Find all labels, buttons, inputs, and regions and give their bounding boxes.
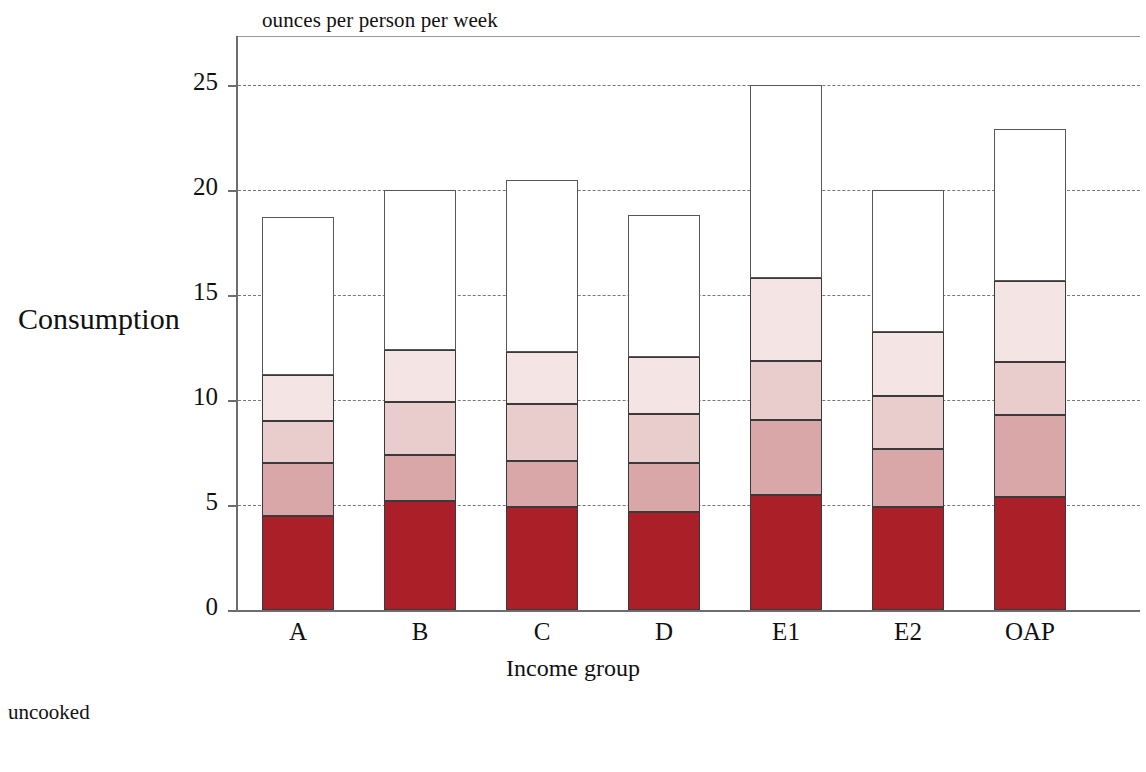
bar-segment-A-segment-5[interactable]	[262, 217, 334, 375]
y-axis-title: Consumption	[18, 302, 180, 336]
y-tick-label-text: 20	[193, 173, 218, 201]
bar-segment-B-segment-4[interactable]	[384, 350, 456, 403]
bar-segment-D-segment-1[interactable]	[628, 512, 700, 610]
y-tick-label-text: 10	[193, 383, 218, 411]
x-axis-line	[236, 610, 1140, 612]
gridline-25	[238, 85, 1140, 86]
x-tick-label-A: A	[238, 618, 358, 646]
bar-segment-C-segment-2[interactable]	[506, 461, 578, 507]
bar-segment-C-segment-1[interactable]	[506, 507, 578, 610]
bar-segment-B-segment-3[interactable]	[384, 402, 456, 455]
y-tick-5	[228, 505, 238, 507]
bar-segment-C-segment-4[interactable]	[506, 352, 578, 405]
bar-B[interactable]	[384, 190, 456, 610]
bar-segment-D-segment-3[interactable]	[628, 414, 700, 463]
y-tick-label-text: 0	[206, 593, 219, 621]
bar-segment-E1-segment-5[interactable]	[750, 85, 822, 278]
bar-segment-OAP-segment-5[interactable]	[994, 129, 1066, 281]
bar-segment-A-segment-2[interactable]	[262, 463, 334, 516]
bar-segment-OAP-segment-4[interactable]	[994, 281, 1066, 362]
bar-segment-E1-segment-1[interactable]	[750, 495, 822, 611]
x-axis-title: Income group	[0, 655, 1146, 682]
bar-A[interactable]	[262, 217, 334, 610]
bar-segment-E2-segment-2[interactable]	[872, 449, 944, 507]
bar-E1[interactable]	[750, 85, 822, 610]
bar-segment-E1-segment-2[interactable]	[750, 420, 822, 495]
bar-segment-E2-segment-5[interactable]	[872, 190, 944, 332]
y-tick-label-text: 15	[193, 278, 218, 306]
y-axis-line	[236, 36, 238, 612]
y-tick-25	[228, 85, 238, 87]
bar-segment-B-segment-2[interactable]	[384, 455, 456, 501]
bar-OAP[interactable]	[994, 129, 1066, 610]
bar-segment-A-segment-3[interactable]	[262, 421, 334, 463]
bar-segment-B-segment-5[interactable]	[384, 190, 456, 350]
bar-segment-OAP-segment-2[interactable]	[994, 415, 1066, 497]
y-tick-label-text: 5	[206, 488, 219, 516]
bar-segment-E2-segment-3[interactable]	[872, 396, 944, 450]
bar-segment-B-segment-1[interactable]	[384, 501, 456, 610]
units-note: ounces per person per week	[262, 8, 498, 33]
x-tick-label-B: B	[360, 618, 480, 646]
y-tick-label-text: 25	[193, 68, 218, 96]
x-tick-label-D: D	[604, 618, 724, 646]
x-tick-label-C: C	[482, 618, 602, 646]
y-tick-0	[228, 610, 238, 612]
x-tick-label-OAP: OAP	[970, 618, 1090, 646]
bar-segment-E1-segment-4[interactable]	[750, 278, 822, 361]
bar-C[interactable]	[506, 180, 578, 611]
y-tick-15	[228, 295, 238, 297]
x-tick-label-E2: E2	[848, 618, 968, 646]
bar-segment-E2-segment-1[interactable]	[872, 507, 944, 610]
y-tick-20	[228, 190, 238, 192]
bar-segment-E1-segment-3[interactable]	[750, 361, 822, 420]
bar-E2[interactable]	[872, 190, 944, 610]
bar-segment-D-segment-4[interactable]	[628, 357, 700, 414]
bar-segment-D-segment-5[interactable]	[628, 215, 700, 357]
bar-segment-D-segment-2[interactable]	[628, 463, 700, 512]
x-tick-label-E1: E1	[726, 618, 846, 646]
bar-segment-OAP-segment-3[interactable]	[994, 362, 1066, 415]
legend-label-uncooked: uncooked	[8, 700, 90, 725]
y-tick-10	[228, 400, 238, 402]
bar-segment-E2-segment-4[interactable]	[872, 332, 944, 396]
bar-segment-A-segment-4[interactable]	[262, 375, 334, 421]
bar-segment-OAP-segment-1[interactable]	[994, 497, 1066, 610]
plot-top-border	[236, 36, 1140, 37]
bar-segment-C-segment-5[interactable]	[506, 180, 578, 352]
bar-segment-C-segment-3[interactable]	[506, 404, 578, 461]
chart-figure: ounces per person per week Consumption 0…	[0, 0, 1146, 772]
bar-D[interactable]	[628, 215, 700, 610]
bar-segment-A-segment-1[interactable]	[262, 516, 334, 611]
